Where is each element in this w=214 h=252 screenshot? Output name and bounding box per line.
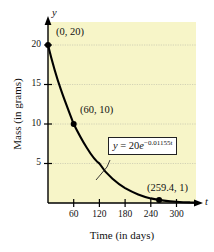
point-label-halflife: (60, 10) [80, 104, 113, 115]
marker-0-20 [45, 42, 51, 48]
x-axis-title: Time (in days) [48, 229, 196, 241]
ytick-label-5: 5 [19, 157, 41, 167]
equation-callout: y = 20e−0.01155t [108, 137, 177, 155]
marker-259-1 [156, 197, 162, 203]
exponential-decay-figure: Mass (in grams) Time (in days) y t 20 15… [0, 0, 214, 252]
ytick-label-20: 20 [19, 39, 41, 49]
equation-equals: = [118, 140, 129, 151]
equation-exponent: −0.01155t [144, 139, 172, 147]
y-variable-label: y [52, 7, 57, 18]
point-label-decayed: (259.4, 1) [147, 182, 188, 193]
equation-coefficient: 20 [129, 140, 140, 151]
xtick-label-240: 240 [138, 209, 164, 219]
marker-60-10 [71, 121, 77, 127]
xtick-label-180: 180 [112, 209, 138, 219]
ytick-label-15: 15 [19, 78, 41, 88]
t-variable-label: t [205, 196, 208, 207]
xtick-label-300: 300 [164, 209, 190, 219]
y-axis-arrowhead [45, 16, 52, 25]
ytick-label-10: 10 [19, 118, 41, 128]
point-label-origin: (0, 20) [56, 26, 84, 37]
xtick-label-120: 120 [86, 209, 112, 219]
xtick-label-60: 60 [61, 209, 87, 219]
